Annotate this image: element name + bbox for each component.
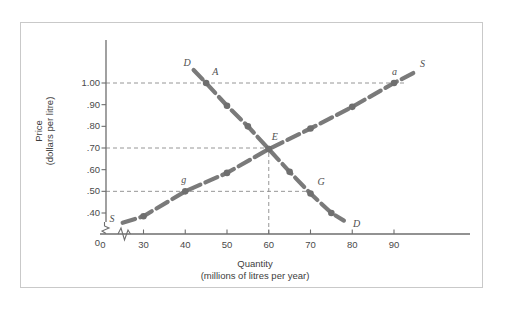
demand-point-70 (307, 190, 314, 197)
x-tick-label-60: 60 (254, 239, 284, 250)
y-axis-title: Price (dollars per litre) (33, 71, 55, 191)
demand-point-45 (203, 80, 210, 87)
demand-point-75 (328, 210, 335, 217)
supply-point-50 (224, 170, 231, 177)
point-label-D-bottom: D (353, 218, 360, 229)
x-tick-label-80: 80 (337, 239, 367, 250)
figure-container: 1.00.90.80.70.60.50.400030405060708090Aa… (0, 0, 506, 311)
demand-point-60 (265, 146, 272, 153)
x-tick-label-50: 50 (212, 239, 242, 250)
point-label-S-top: S (420, 58, 425, 69)
x-tick-label-90: 90 (379, 239, 409, 250)
supply-point-30 (140, 213, 147, 220)
point-label-g: g (181, 174, 186, 185)
x-axis-title-line2: (millions of litres per year) (150, 270, 360, 282)
y-tick-label-.60: .60 (62, 164, 100, 175)
y-tick-label-1.00: 1.00 (62, 77, 100, 88)
x-tick-label-40: 40 (170, 239, 200, 250)
supply-point-40 (182, 188, 189, 195)
x-axis-title-line1: Quantity (150, 258, 360, 270)
demand-point-55 (245, 123, 252, 130)
point-label-a: a (392, 66, 397, 77)
point-label-G: G (318, 176, 325, 187)
y-tick-label-.50: .50 (62, 185, 100, 196)
y-tick-label-.80: .80 (62, 120, 100, 131)
point-label-A: A (212, 66, 218, 77)
supply-point-70 (307, 125, 314, 132)
y-tick-label-.40: .40 (62, 207, 100, 218)
demand-point-65 (286, 169, 293, 176)
demand-point-50 (224, 102, 231, 109)
x-tick-label-30: 30 (129, 239, 159, 250)
point-label-E: E (272, 131, 278, 142)
x-axis-title: Quantity (millions of litres per year) (150, 258, 360, 281)
y-tick-label-.90: .90 (62, 99, 100, 110)
supply-point-80 (349, 104, 356, 111)
point-label-S-bottom: S (109, 213, 114, 224)
point-label-D-top: D (184, 57, 191, 68)
supply-point-90 (391, 80, 398, 87)
y-tick-label-.70: .70 (62, 142, 100, 153)
x-tick-label-70: 70 (296, 239, 326, 250)
y-axis-break-symbol (102, 222, 109, 234)
y-axis-title-line1: Price (33, 71, 44, 191)
y-axis-title-line2: (dollars per litre) (44, 71, 55, 191)
x-tick-label-0: 0 (88, 239, 118, 250)
